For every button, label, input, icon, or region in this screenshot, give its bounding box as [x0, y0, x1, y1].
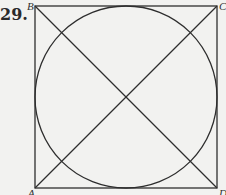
geometry-figure: 29. B C A D — [0, 0, 226, 195]
vertex-label-d: D — [218, 187, 226, 195]
problem-number: 29. — [0, 5, 28, 24]
vertex-label-b: B — [27, 0, 34, 12]
vertex-label-c: C — [219, 0, 226, 12]
vertex-label-a: A — [27, 187, 35, 195]
